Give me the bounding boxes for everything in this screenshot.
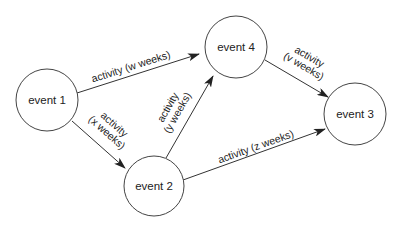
edge-y: activity (y weeks) [151, 76, 213, 158]
edge-v: activity (v weeks) [265, 40, 332, 97]
activity-network-diagram: activity (w weeks) activity (x weeks) ac… [0, 0, 402, 231]
edge-x: activity (x weeks) [72, 105, 135, 168]
event-3-label: event 3 [336, 108, 374, 120]
edge-w: activity (w weeks) [77, 48, 199, 93]
node-event-1: event 1 [16, 69, 78, 131]
event-1-label: event 1 [28, 94, 66, 106]
edge-z: activity (z weeks) [183, 127, 325, 180]
event-2-label: event 2 [135, 180, 173, 192]
arrow-line-z [183, 129, 325, 180]
event-4-label: event 4 [217, 41, 255, 53]
node-event-4: event 4 [205, 16, 267, 78]
node-event-2: event 2 [124, 156, 184, 216]
edge-label-z: activity (z weeks) [216, 127, 295, 165]
node-event-3: event 3 [324, 83, 386, 145]
